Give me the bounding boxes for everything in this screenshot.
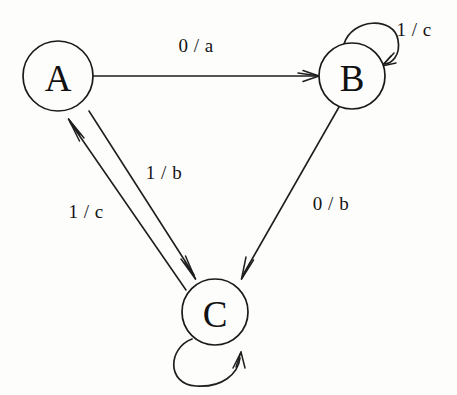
state-node-c[interactable]: C [182, 279, 248, 345]
edge-a-to-c [89, 111, 196, 279]
state-c-label: C [203, 294, 228, 335]
edge-label-b-self-loop: 1 / c [396, 19, 431, 40]
state-node-b[interactable]: B [319, 43, 385, 109]
edge-a-to-b [93, 71, 319, 82]
state-a-label: A [45, 58, 72, 99]
edge-c-self-loop [174, 339, 245, 386]
edge-label-a-to-b: 0 / a [178, 35, 213, 56]
state-b-label: B [340, 58, 365, 99]
edge-label-b-to-c: 0 / b [313, 193, 349, 214]
edge-b-to-c-line [243, 107, 339, 275]
edge-c-self-loop-path [174, 339, 240, 386]
edge-label-c-to-a: 1 / c [68, 201, 103, 222]
edge-a-to-c-line [89, 111, 194, 275]
fsm-canvas: A B C 0 / a 1 / c 0 / b 1 / b 1 / c [0, 0, 457, 395]
state-node-a[interactable]: A [23, 41, 93, 111]
edge-c-to-a-arrow-barb [69, 119, 81, 135]
edge-label-a-to-c: 1 / b [146, 162, 182, 183]
edge-a-to-c-arrow-barb [185, 262, 196, 279]
state-diagram: A B C 0 / a 1 / c 0 / b 1 / b 1 / c [0, 0, 457, 395]
